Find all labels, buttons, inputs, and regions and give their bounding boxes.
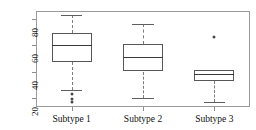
- box-subtype-3: [194, 70, 234, 81]
- whisker-cap-upper-2: [132, 24, 153, 25]
- boxplot-chart: 20 40 60 80: [0, 0, 256, 130]
- whisker-line-upper-2: [143, 24, 145, 44]
- y-label-wrap-80: 80: [30, 28, 31, 29]
- whisker-cap-lower-3: [204, 102, 225, 103]
- whisker-cap-lower-2: [132, 98, 153, 99]
- y-axis-label-20: 20: [31, 107, 40, 116]
- y-tick-60: [32, 45, 36, 46]
- x-axis-label-subtype-2: Subtype 2: [124, 115, 162, 125]
- whisker-line-lower-2: [143, 72, 145, 98]
- y-tick-80: [32, 19, 36, 20]
- whisker-line-lower-3: [214, 81, 216, 102]
- median-line-3: [194, 74, 234, 75]
- outlier-point: [70, 92, 73, 95]
- whisker-line-upper-1: [72, 15, 74, 33]
- x-axis-label-subtype-1: Subtype 1: [53, 115, 91, 125]
- whisker-cap-upper-1: [61, 15, 82, 16]
- median-line-1: [52, 45, 92, 46]
- outlier-point: [70, 100, 73, 103]
- x-tick-3: [214, 107, 215, 111]
- outlier-point: [213, 36, 216, 39]
- y-axis-label-80: 80: [31, 28, 40, 37]
- median-line-2: [123, 57, 163, 58]
- x-tick-1: [72, 107, 73, 111]
- x-axis-label-subtype-3: Subtype 3: [195, 115, 233, 125]
- y-label-wrap-40: 40: [30, 81, 31, 82]
- plot-area: 20 40 60 80: [36, 11, 250, 107]
- x-tick-2: [143, 107, 144, 111]
- y-label-wrap-60: 60: [30, 54, 31, 55]
- y-tick-20: [32, 98, 36, 99]
- y-axis-label-40: 40: [31, 81, 40, 90]
- y-tick-40: [32, 72, 36, 73]
- y-label-wrap-20: 20: [30, 107, 31, 108]
- whisker-cap-lower-1: [61, 90, 82, 91]
- y-axis-label-60: 60: [31, 54, 40, 63]
- box-subtype-1: [52, 33, 92, 62]
- whisker-line-lower-1: [72, 62, 74, 90]
